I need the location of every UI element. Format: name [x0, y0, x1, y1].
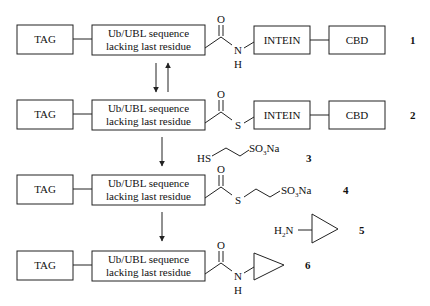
compound-number-5: 5 [359, 224, 365, 236]
oxygen-atom: O [217, 239, 225, 251]
hydrogen-atom: H [234, 58, 242, 70]
ubl-label-line2: lacking last residue [106, 266, 191, 278]
tag-label: TAG [34, 33, 56, 45]
sulfur-atom: S [235, 119, 241, 131]
sulfur-atom: S [235, 194, 241, 206]
amide-bond [205, 263, 232, 274]
ubl-label-line1: Ub/UBL sequence [108, 27, 189, 39]
compound-1-row: TAG Ub/UBL sequence lacking last residue… [17, 13, 416, 70]
ubl-label-line2: lacking last residue [106, 115, 191, 127]
tag-label: TAG [34, 183, 56, 195]
oxygen-atom: O [217, 88, 225, 100]
hydrogen-atom: H [234, 284, 242, 296]
ubl-label-line1: Ub/UBL sequence [108, 177, 189, 189]
thioester-bond [205, 112, 232, 123]
ubl-label-line1: Ub/UBL sequence [108, 253, 189, 265]
compound-number-4: 4 [343, 184, 349, 196]
oxygen-atom: O [217, 163, 225, 175]
compound-6-row: TAG Ub/UBL sequence lacking last residue… [17, 239, 311, 296]
intein-label: INTEIN [264, 34, 301, 46]
compound-number-3: 3 [306, 152, 312, 164]
ubl-label-line2: lacking last residue [106, 40, 191, 52]
reagent-5-cyclopropylamine: H2N 5 [274, 214, 365, 243]
ubl-label-line2: lacking last residue [106, 190, 191, 202]
compound-number-2: 2 [410, 109, 416, 121]
compound-4-row: TAG Ub/UBL sequence lacking last residue… [17, 163, 349, 206]
oxygen-atom: O [217, 13, 225, 25]
cyclopropane-ring [254, 253, 284, 280]
ubl-label-line1: Ub/UBL sequence [108, 102, 189, 114]
compound-number-1: 1 [410, 34, 416, 46]
nitrogen-atom: N [234, 44, 242, 56]
sulfonate-group: SO3Na [249, 142, 280, 157]
ubiquitin-probe-synthesis-scheme: TAG Ub/UBL sequence lacking last residue… [0, 0, 430, 306]
sulfonate-group: SO3Na [281, 184, 312, 199]
amine-group: H2N [274, 224, 293, 239]
reagent-3-mesna: HS SO3Na 3 [197, 142, 312, 164]
compound-2-row: TAG Ub/UBL sequence lacking last residue… [17, 88, 416, 131]
cyclopropane-ring [312, 214, 338, 243]
tag-label: TAG [34, 108, 56, 120]
compound-number-6: 6 [305, 259, 311, 271]
intein-label: INTEIN [264, 109, 301, 121]
cbd-label: CBD [346, 109, 369, 121]
amide-bond [205, 37, 232, 48]
thioester-bond [205, 187, 232, 198]
cbd-label: CBD [346, 34, 369, 46]
tag-label: TAG [34, 259, 56, 271]
thiol-group: HS [197, 152, 211, 164]
nitrogen-atom: N [234, 270, 242, 282]
